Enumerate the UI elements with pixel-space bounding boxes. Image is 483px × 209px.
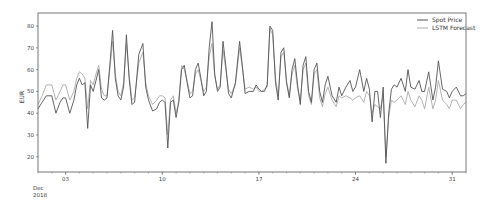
x-month-label: Dec xyxy=(33,185,44,191)
y-tick-label: 70 xyxy=(27,45,34,51)
x-axis: 0310172431 xyxy=(38,172,466,182)
x-tick-label: 10 xyxy=(159,176,166,182)
series-line-lstm-forecast xyxy=(38,28,466,157)
series-layer xyxy=(38,22,466,164)
x-year-label: 2018 xyxy=(33,192,47,198)
y-tick-label: 30 xyxy=(27,132,34,138)
y-tick-label: 20 xyxy=(27,154,34,160)
plot-frame xyxy=(38,13,466,172)
y-tick-label: 50 xyxy=(27,88,34,94)
x-tick-label: 31 xyxy=(449,176,456,182)
legend-label-spot-price: Spot Price xyxy=(432,16,462,24)
y-axis: 20304050607080 xyxy=(27,23,38,160)
legend-label-lstm-forecast: LSTM Forecast xyxy=(432,24,476,31)
legend: Spot Price LSTM Forecast xyxy=(417,16,476,31)
series-line-spot-price xyxy=(38,22,466,164)
y-tick-label: 60 xyxy=(27,67,34,73)
x-tick-label: 24 xyxy=(352,176,359,182)
y-axis-label: EUR xyxy=(18,91,25,103)
x-tick-label: 17 xyxy=(255,176,262,182)
line-chart: 20304050607080 0310172431 EUR Dec 2018 S… xyxy=(0,0,483,209)
y-tick-label: 40 xyxy=(27,110,34,116)
x-tick-label: 03 xyxy=(62,176,69,182)
y-tick-label: 80 xyxy=(27,23,34,29)
